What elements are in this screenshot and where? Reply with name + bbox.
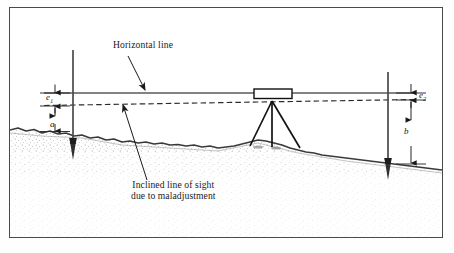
- telescope-body: [254, 89, 292, 99]
- dimension-label-e1-sub: 1: [50, 97, 53, 104]
- leader-horizontal-line: [128, 56, 145, 90]
- staff-rod-right: [384, 72, 391, 180]
- label-inclined-line: Inclined line of sight due to maladjustm…: [131, 180, 216, 201]
- dimension-a: [40, 108, 70, 132]
- figure-container: Horizontal line Inclined line of sight d…: [0, 0, 454, 253]
- dimension-b: [396, 102, 426, 164]
- dimension-label-e2: e2: [419, 90, 426, 102]
- label-inclined-line-1: Inclined line of sight: [132, 179, 214, 190]
- dimension-label-a: a: [50, 119, 55, 129]
- dimension-label-e2-sub: 2: [423, 95, 426, 102]
- diagram-canvas: [0, 0, 454, 253]
- dimension-label-e1: e1: [46, 92, 53, 104]
- label-inclined-line-2: due to maladjustment: [131, 191, 216, 202]
- inclined-line-of-sight: [44, 100, 414, 106]
- label-horizontal-line: Horizontal line: [113, 40, 173, 51]
- tripod-leg-right: [272, 101, 300, 148]
- tripod-leg-left: [250, 101, 272, 146]
- dimension-label-b: b: [404, 126, 409, 136]
